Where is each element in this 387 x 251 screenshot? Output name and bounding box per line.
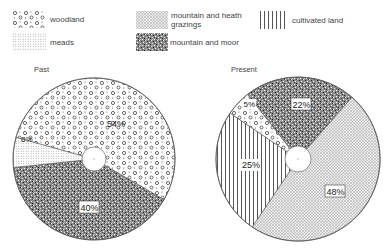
present-label-cultivated: 25%	[242, 160, 260, 170]
present-label-woodland: 5%	[244, 100, 256, 109]
pie-past: 54% 6% 40%	[13, 78, 175, 240]
past-label-moor: 40%	[81, 203, 99, 213]
past-label-woodland: 54%	[107, 119, 125, 129]
present-label-moor: 22%	[293, 100, 311, 110]
past-label-meads: 6%	[21, 135, 33, 144]
pie-present: 22% 48% 25% 5%	[216, 77, 380, 241]
pie-charts: 54% 6% 40% 22% 48% 25% 5%	[0, 0, 387, 251]
present-label-grazings: 48%	[327, 187, 345, 197]
